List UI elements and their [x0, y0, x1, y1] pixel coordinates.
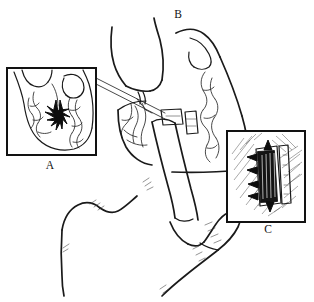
- panel-c-label: C: [264, 223, 272, 235]
- panel-a-label: A: [46, 159, 55, 171]
- device-head-assembly: [161, 109, 198, 134]
- right-tissue-texture: [201, 72, 219, 162]
- panel-b-main-drawing: [61, 18, 248, 296]
- figure-canvas: A: [0, 0, 314, 302]
- panel-a-leader-upper: [96, 78, 165, 113]
- panel-a-leader-lines: [96, 78, 165, 119]
- panel-c-inset: C: [227, 131, 305, 235]
- hand-thumb-outline: [61, 196, 137, 296]
- shading-ticks: [63, 178, 221, 293]
- panel-a-inset: A: [7, 68, 96, 171]
- figure-root: A: [0, 0, 314, 302]
- index-finger-outline: [162, 212, 240, 296]
- applicator-instrument: [152, 119, 198, 221]
- panel-b-label: B: [174, 8, 182, 20]
